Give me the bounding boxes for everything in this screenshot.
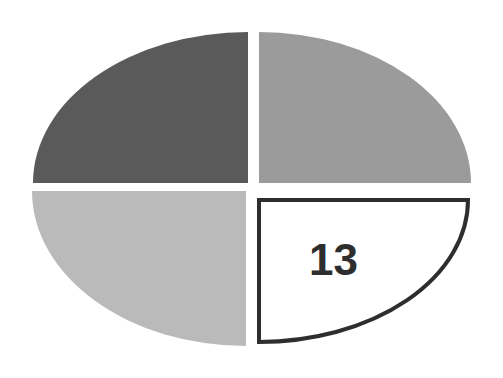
slice-bottom-left [32, 191, 246, 346]
slice-label-13: 13 [309, 235, 358, 284]
quadrant-pie-chart: 13 [0, 0, 503, 378]
slice-top-left [33, 32, 248, 183]
slice-bottom-right [259, 200, 468, 342]
slice-top-right [259, 32, 471, 183]
